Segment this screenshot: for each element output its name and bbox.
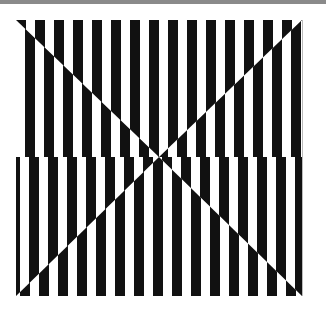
op-art-stripes (0, 0, 326, 309)
